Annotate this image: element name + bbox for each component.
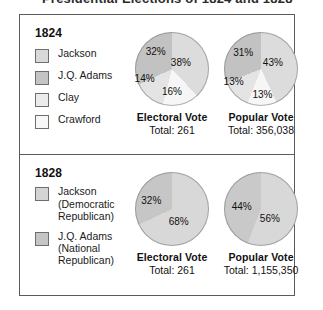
chart-caption: Electoral Vote: [124, 111, 220, 123]
legend-item: J.Q. Adams (National Republican): [35, 231, 135, 267]
section-1824: 1824 Jackson J.Q. Adams Clay Crawford 3: [20, 15, 294, 155]
section-year-label: 1828: [35, 166, 62, 180]
legend-label-main: Jackson: [58, 185, 97, 197]
legend-swatch-crawford: [35, 115, 49, 129]
chart-caption: Electoral Vote: [124, 251, 220, 263]
chart-total: Total: 261: [124, 124, 220, 136]
legend-swatch-jq-adams: [35, 232, 49, 246]
legend-item: Jackson: [35, 48, 135, 63]
legend-label: J.Q. Adams: [58, 70, 112, 82]
legend-1824: Jackson J.Q. Adams Clay Crawford: [35, 48, 135, 136]
chart-1828-popular: 56% 44% Popular Vote Total: 1,155,350: [213, 172, 309, 276]
pie-slice-label: 43%: [263, 56, 283, 67]
figure-frame: 1824 Jackson J.Q. Adams Clay Crawford 3: [19, 14, 295, 296]
section-1828: 1828 Jackson (Democratic Republican) J.Q…: [20, 155, 294, 295]
pie-slice-label: 32%: [141, 195, 161, 206]
pie-slice-label: 14%: [135, 72, 155, 83]
chart-caption: Popular Vote: [213, 111, 309, 123]
legend-label: Crawford: [58, 114, 101, 126]
pie-slice-label: 31%: [233, 46, 253, 57]
pie-slice-label: 32%: [146, 45, 166, 56]
chart-total: Total: 356,038: [213, 124, 309, 136]
pie-chart: 68% 32%: [135, 172, 209, 246]
pie-chart: 43% 13% 13% 31%: [224, 32, 298, 106]
legend-item: Jackson (Democratic Republican): [35, 186, 135, 222]
chart-total: Total: 261: [124, 264, 220, 276]
pie-slice-label: 56%: [260, 212, 280, 223]
figure-title-strip: Presidential Elections of 1824 and 1828: [0, 0, 323, 9]
legend-swatch-jq-adams: [35, 71, 49, 85]
legend-item: Crawford: [35, 114, 135, 129]
legend-label-main: J.Q. Adams: [58, 230, 112, 242]
chart-1824-electoral: 38% 16% 14% 32% Electoral Vote Total: 26…: [124, 32, 220, 136]
chart-caption: Popular Vote: [213, 251, 309, 263]
legend-1828: Jackson (Democratic Republican) J.Q. Ada…: [35, 186, 135, 272]
pie-slice-label: 38%: [171, 56, 191, 67]
legend-label: Clay: [58, 92, 79, 104]
pie-chart: 38% 16% 14% 32%: [135, 32, 209, 106]
section-year-label: 1824: [35, 26, 62, 40]
legend-label: Jackson: [58, 48, 97, 60]
legend-item: Clay: [35, 92, 135, 107]
chart-1828-electoral: 68% 32% Electoral Vote Total: 261: [124, 172, 220, 276]
pie-chart: 56% 44%: [224, 172, 298, 246]
chart-total: Total: 1,155,350: [213, 264, 309, 276]
pie-slice-label: 16%: [162, 86, 182, 97]
pie-slice-label: 68%: [169, 215, 189, 226]
legend-swatch-jackson: [35, 187, 49, 201]
pie-slice-label: 13%: [224, 75, 244, 86]
legend-swatch-jackson: [35, 49, 49, 63]
pie-slice-label: 13%: [252, 89, 272, 100]
figure-title: Presidential Elections of 1824 and 1828: [42, 0, 293, 6]
chart-1824-popular: 43% 13% 13% 31% Popular Vote Total: 356,…: [213, 32, 309, 136]
legend-swatch-clay: [35, 93, 49, 107]
pie-slice-label: 44%: [232, 201, 252, 212]
legend-item: J.Q. Adams: [35, 70, 135, 85]
